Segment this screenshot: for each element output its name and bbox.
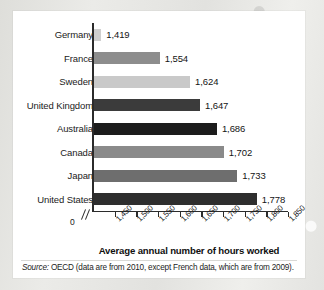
bar-row: Germany1,419 — [13, 23, 305, 46]
category-label: United Kingdom — [0, 94, 93, 117]
bar-row: France1,554 — [13, 47, 305, 70]
bar — [93, 123, 217, 135]
category-label: United States — [0, 188, 93, 211]
bar — [93, 193, 257, 205]
bar-value-label: 1,733 — [242, 164, 265, 187]
bar-row: Australia1,686 — [13, 117, 305, 140]
bar — [93, 52, 160, 64]
bar-row: Canada1,702 — [13, 141, 305, 164]
category-label: Japan — [0, 164, 93, 187]
bar-value-label: 1,686 — [222, 117, 245, 140]
source-note: Source: OECD (data are from 2010, except… — [22, 263, 302, 272]
category-axis-line — [92, 23, 94, 211]
bar-value-label: 1,554 — [165, 47, 188, 70]
bar — [93, 99, 200, 111]
bar-value-label: 1,647 — [205, 94, 228, 117]
category-label: Australia — [0, 117, 93, 140]
axis-break-icon — [81, 209, 93, 220]
x-axis-title: Average annual number of hours worked — [73, 245, 305, 256]
category-label: Germany — [0, 23, 93, 46]
bar-chart-plot-area: Germany1,419France1,554Sweden1,624United… — [13, 11, 305, 278]
bar — [93, 76, 190, 88]
source-divider — [21, 260, 297, 261]
source-text: OECD (data are from 2010, except French … — [49, 263, 294, 272]
category-label: France — [0, 47, 93, 70]
bar — [93, 146, 224, 158]
category-label: Canada — [0, 141, 93, 164]
x-axis-zero-label: 0 — [70, 217, 75, 227]
bar-row: Japan1,733 — [13, 164, 305, 187]
bar — [93, 29, 101, 41]
bar — [93, 170, 237, 182]
bar-value-label: 1,702 — [229, 141, 252, 164]
bar-value-label: 1,624 — [195, 70, 218, 93]
bar-row: United Kingdom1,647 — [13, 94, 305, 117]
source-label: Source: — [22, 263, 49, 272]
chart-card: Germany1,419France1,554Sweden1,624United… — [13, 11, 305, 278]
bar-value-label: 1,419 — [106, 23, 129, 46]
category-label: Sweden — [0, 70, 93, 93]
bar-row: Sweden1,624 — [13, 70, 305, 93]
